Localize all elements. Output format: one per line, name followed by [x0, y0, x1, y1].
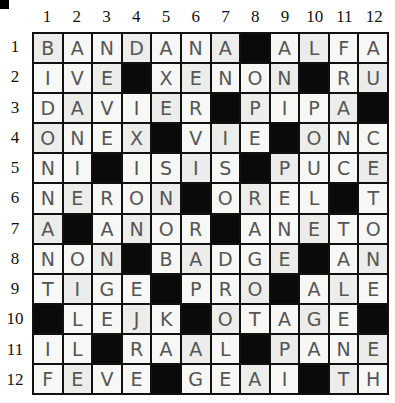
letter-cell[interactable]: N — [182, 34, 210, 62]
letter-cell[interactable]: P — [271, 154, 299, 182]
letter-cell[interactable]: B — [34, 34, 62, 62]
letter-cell[interactable]: A — [212, 34, 240, 62]
letter-cell[interactable]: N — [330, 335, 358, 363]
letter-cell[interactable]: E — [271, 245, 299, 273]
letter-cell[interactable]: V — [64, 64, 92, 92]
letter-cell[interactable]: O — [241, 64, 269, 92]
letter-cell[interactable]: K — [152, 305, 180, 333]
letter-cell[interactable]: I — [34, 64, 62, 92]
letter-cell[interactable]: E — [93, 305, 121, 333]
letter-cell[interactable]: O — [34, 124, 62, 152]
letter-cell[interactable]: S — [212, 154, 240, 182]
letter-cell[interactable]: E — [241, 124, 269, 152]
letter-cell[interactable]: E — [359, 335, 387, 363]
letter-cell[interactable]: A — [300, 275, 328, 303]
letter-cell[interactable]: A — [64, 34, 92, 62]
letter-cell[interactable]: O — [212, 305, 240, 333]
letter-cell[interactable]: R — [182, 94, 210, 122]
letter-cell[interactable]: V — [93, 365, 121, 393]
letter-cell[interactable]: E — [271, 184, 299, 212]
letter-cell[interactable]: S — [152, 154, 180, 182]
letter-cell[interactable]: E — [64, 184, 92, 212]
letter-cell[interactable]: A — [182, 245, 210, 273]
letter-cell[interactable]: O — [152, 215, 180, 243]
letter-cell[interactable]: C — [359, 124, 387, 152]
letter-cell[interactable]: I — [64, 275, 92, 303]
letter-cell[interactable]: D — [34, 94, 62, 122]
letter-cell[interactable]: R — [123, 335, 151, 363]
letter-cell[interactable]: G — [93, 275, 121, 303]
letter-cell[interactable]: T — [34, 275, 62, 303]
letter-cell[interactable]: F — [330, 34, 358, 62]
letter-cell[interactable]: N — [212, 64, 240, 92]
letter-cell[interactable]: H — [359, 365, 387, 393]
letter-cell[interactable]: A — [241, 365, 269, 393]
letter-cell[interactable]: L — [330, 275, 358, 303]
letter-cell[interactable]: N — [330, 124, 358, 152]
letter-cell[interactable]: E — [123, 275, 151, 303]
letter-cell[interactable]: L — [64, 335, 92, 363]
letter-cell[interactable]: A — [93, 215, 121, 243]
letter-cell[interactable]: T — [330, 365, 358, 393]
letter-cell[interactable]: I — [123, 154, 151, 182]
letter-cell[interactable]: P — [182, 275, 210, 303]
letter-cell[interactable]: N — [271, 215, 299, 243]
letter-cell[interactable]: D — [212, 245, 240, 273]
letter-cell[interactable]: N — [93, 34, 121, 62]
letter-cell[interactable]: C — [330, 154, 358, 182]
letter-cell[interactable]: A — [300, 335, 328, 363]
letter-cell[interactable]: V — [93, 94, 121, 122]
letter-cell[interactable]: E — [359, 154, 387, 182]
letter-cell[interactable]: G — [182, 365, 210, 393]
letter-cell[interactable]: F — [34, 365, 62, 393]
letter-cell[interactable]: I — [271, 365, 299, 393]
letter-cell[interactable]: N — [271, 64, 299, 92]
letter-cell[interactable]: I — [34, 335, 62, 363]
letter-cell[interactable]: G — [300, 305, 328, 333]
letter-cell[interactable]: A — [152, 34, 180, 62]
letter-cell[interactable]: A — [182, 335, 210, 363]
letter-cell[interactable]: R — [212, 275, 240, 303]
letter-cell[interactable]: L — [212, 335, 240, 363]
letter-cell[interactable]: L — [300, 34, 328, 62]
letter-cell[interactable]: B — [152, 245, 180, 273]
letter-cell[interactable]: E — [93, 124, 121, 152]
letter-cell[interactable]: L — [64, 305, 92, 333]
letter-cell[interactable]: E — [330, 305, 358, 333]
letter-cell[interactable]: N — [359, 245, 387, 273]
letter-cell[interactable]: N — [152, 184, 180, 212]
letter-cell[interactable]: I — [123, 94, 151, 122]
letter-cell[interactable]: N — [34, 154, 62, 182]
letter-cell[interactable]: E — [212, 365, 240, 393]
letter-cell[interactable]: O — [241, 275, 269, 303]
letter-cell[interactable]: I — [182, 154, 210, 182]
letter-cell[interactable]: E — [64, 365, 92, 393]
letter-cell[interactable]: O — [300, 124, 328, 152]
letter-cell[interactable]: T — [359, 184, 387, 212]
letter-cell[interactable]: P — [241, 94, 269, 122]
letter-cell[interactable]: A — [34, 215, 62, 243]
letter-cell[interactable]: O — [212, 184, 240, 212]
letter-cell[interactable]: N — [64, 124, 92, 152]
letter-cell[interactable]: A — [359, 34, 387, 62]
letter-cell[interactable]: N — [93, 245, 121, 273]
letter-cell[interactable]: I — [212, 124, 240, 152]
letter-cell[interactable]: L — [300, 184, 328, 212]
letter-cell[interactable]: D — [123, 34, 151, 62]
letter-cell[interactable]: O — [123, 184, 151, 212]
letter-cell[interactable]: V — [182, 124, 210, 152]
letter-cell[interactable]: R — [93, 184, 121, 212]
letter-cell[interactable]: E — [93, 64, 121, 92]
letter-cell[interactable]: T — [330, 215, 358, 243]
letter-cell[interactable]: A — [241, 215, 269, 243]
letter-cell[interactable]: I — [271, 94, 299, 122]
letter-cell[interactable]: A — [330, 245, 358, 273]
letter-cell[interactable]: E — [152, 94, 180, 122]
letter-cell[interactable]: P — [271, 335, 299, 363]
letter-cell[interactable]: E — [123, 365, 151, 393]
letter-cell[interactable]: P — [300, 94, 328, 122]
letter-cell[interactable]: X — [123, 124, 151, 152]
letter-cell[interactable]: O — [359, 215, 387, 243]
letter-cell[interactable]: X — [152, 64, 180, 92]
letter-cell[interactable]: G — [241, 245, 269, 273]
